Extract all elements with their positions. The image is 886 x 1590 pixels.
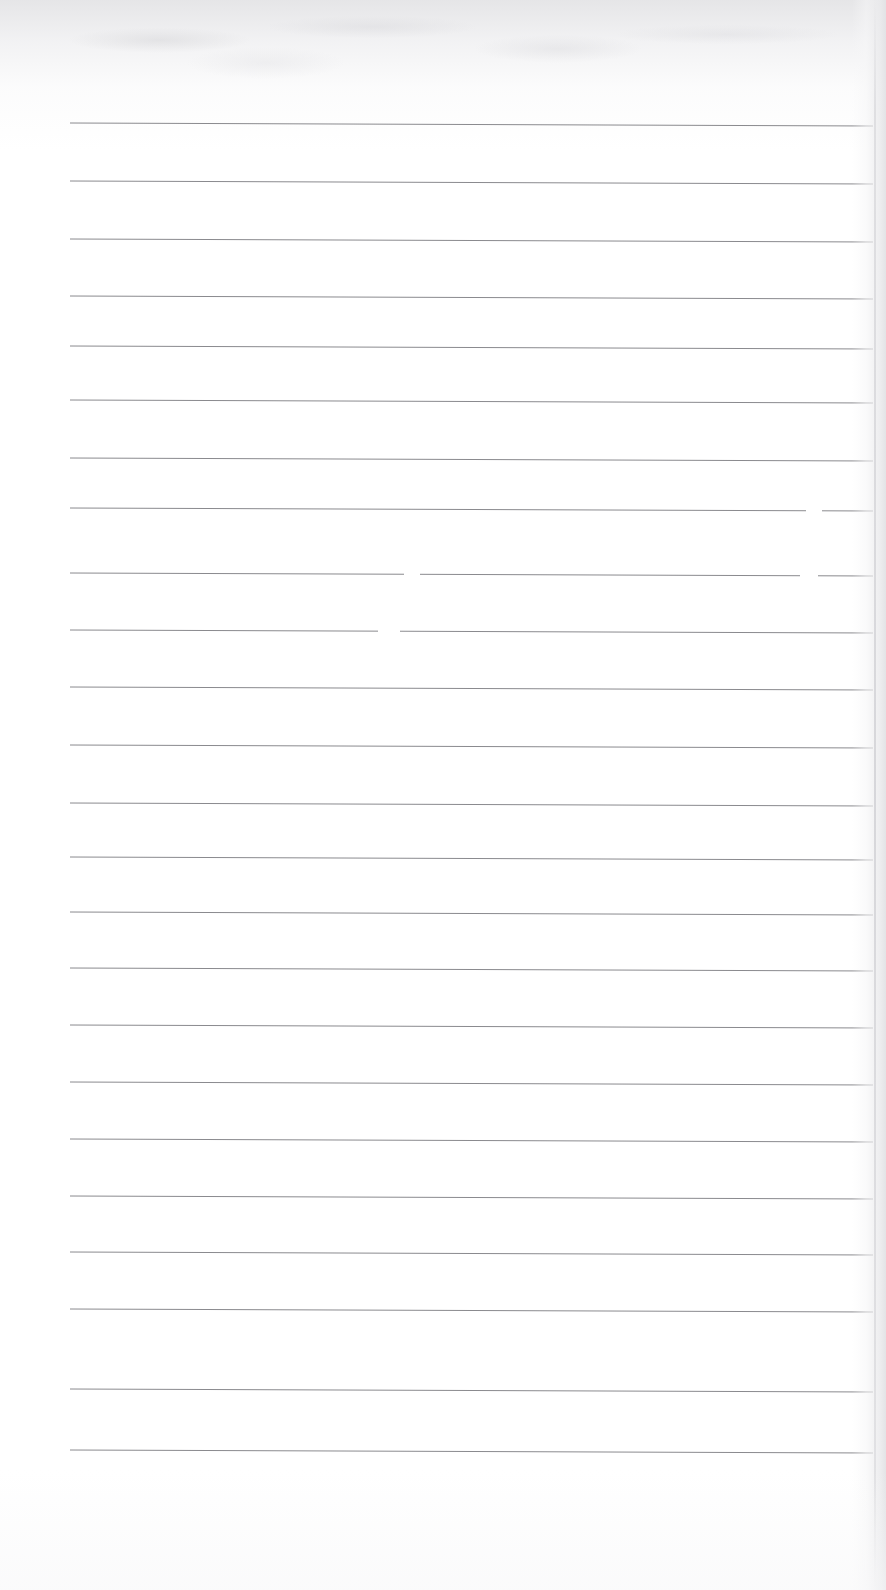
- ruled-line: [70, 1023, 873, 1030]
- ruled-lines-layer: [0, 0, 886, 1590]
- ruled-line: [70, 685, 873, 692]
- ruled-line: [70, 506, 873, 513]
- ruled-line: [70, 1387, 873, 1394]
- ruled-line: [70, 237, 873, 244]
- ruled-line: [70, 571, 873, 578]
- scanned-page: [0, 0, 886, 1590]
- ruled-line: [70, 179, 873, 186]
- ruled-line: [70, 855, 873, 862]
- ruled-line: [70, 1448, 873, 1455]
- ruled-line: [70, 294, 873, 301]
- ruled-line: [70, 456, 873, 463]
- ruled-line: [70, 628, 873, 635]
- ruled-line: [70, 1137, 873, 1144]
- ruled-line: [70, 966, 873, 973]
- ruled-line: [70, 910, 873, 917]
- ruled-line: [70, 121, 873, 128]
- ruled-line: [70, 1080, 873, 1087]
- ruled-line: [70, 1194, 873, 1201]
- ruled-line: [70, 801, 873, 808]
- ruled-line: [70, 1307, 873, 1314]
- ruled-line: [70, 1250, 873, 1257]
- ruled-line: [70, 344, 873, 351]
- ruled-line: [70, 398, 873, 405]
- ruled-line: [70, 743, 873, 750]
